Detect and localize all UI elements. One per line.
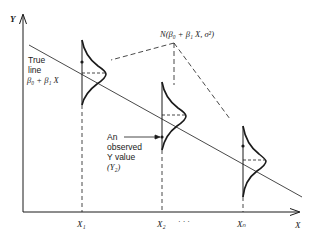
observed-label-1: An (107, 132, 117, 142)
observed-label-2: observed (107, 142, 142, 152)
arrow-head-icon (155, 135, 160, 139)
x-tick-label-x1: X₁ (77, 219, 86, 229)
x-tick-label-x2: X₂ (157, 219, 166, 229)
normal-curve-x2 (160, 82, 186, 150)
distribution-label: N(β₀ + β₁ X, σ²) (160, 29, 214, 39)
axes (20, 14, 301, 216)
normal-curve-xn (241, 126, 266, 197)
x-tick-label-xn: Xₙ (237, 219, 247, 229)
normal-curve-x1 (80, 40, 106, 105)
true-regression-line (29, 45, 302, 197)
observed-point-xn (241, 144, 244, 147)
observed-value-arrow (124, 135, 160, 139)
observed-point-x1 (80, 60, 83, 63)
true-line-label-2: line (28, 65, 41, 75)
true-line-equation: β₀ + β₁ X (27, 75, 59, 85)
x-axis-label: X (295, 220, 301, 230)
regression-diagram (0, 0, 313, 236)
true-line-label-1: True (28, 55, 45, 65)
observed-label-3: Y value (107, 152, 135, 162)
distribution-pointer-lines (111, 43, 230, 119)
y-axis-label: Y (10, 14, 16, 24)
observed-label-4: (Y₂) (107, 162, 120, 172)
x-tick-ellipsis: · · · (178, 217, 190, 227)
